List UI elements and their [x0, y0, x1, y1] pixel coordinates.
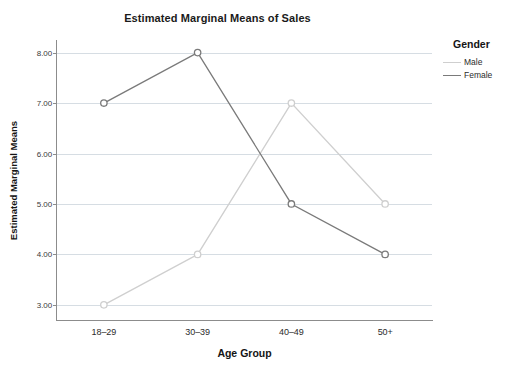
data-point-marker: [101, 100, 107, 106]
legend-item-male[interactable]: Male: [443, 57, 520, 67]
x-tick-label: 18–29: [69, 327, 139, 337]
data-point-marker: [101, 302, 107, 308]
y-tick-label: 8.00: [12, 48, 52, 57]
x-tick-label: 50+: [350, 327, 420, 337]
y-axis-title-text: Estimated Marginal Means: [9, 120, 20, 239]
y-tick-label: 6.00: [12, 149, 52, 158]
data-point-marker: [194, 49, 200, 55]
x-axis-line: [56, 320, 433, 321]
data-point-marker: [382, 251, 388, 257]
x-axis-title: Age Group: [57, 347, 432, 359]
chart-figure: Estimated Marginal Means of Sales Estima…: [0, 0, 520, 380]
legend-label: Female: [464, 70, 492, 80]
series-line-male: [104, 103, 385, 305]
y-axis-title: Estimated Marginal Means: [6, 40, 22, 320]
series-layer: [57, 40, 432, 320]
plot-area: [57, 40, 432, 320]
legend-title: Gender: [453, 38, 520, 50]
y-tick-label: 5.00: [12, 199, 52, 208]
legend: Gender MaleFemale: [443, 38, 520, 83]
chart-title: Estimated Marginal Means of Sales: [0, 12, 435, 24]
series-line-female: [104, 53, 385, 255]
data-point-marker: [288, 100, 294, 106]
data-point-marker: [382, 201, 388, 207]
data-point-marker: [288, 201, 294, 207]
legend-swatch-icon: [443, 75, 461, 76]
y-tick-label: 3.00: [12, 300, 52, 309]
data-point-marker: [194, 251, 200, 257]
y-tick-label: 4.00: [12, 250, 52, 259]
legend-item-female[interactable]: Female: [443, 70, 520, 80]
y-tick-label: 7.00: [12, 99, 52, 108]
legend-label: Male: [464, 57, 482, 67]
legend-items: MaleFemale: [443, 57, 520, 80]
x-tick-label: 30–39: [163, 327, 233, 337]
x-tick-label: 40–49: [256, 327, 326, 337]
legend-swatch-icon: [443, 62, 461, 63]
